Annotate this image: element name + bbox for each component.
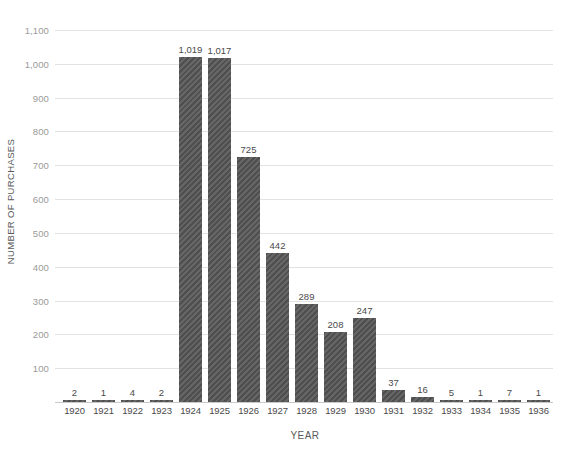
y-axis-tick-label: 1,000 — [25, 58, 49, 69]
bar-slot: 2 — [147, 30, 176, 402]
bar[interactable] — [440, 400, 463, 403]
y-axis-tick-label: 600 — [33, 194, 49, 205]
bar[interactable] — [208, 58, 231, 402]
y-axis-title-label: NUMBER OF PURCHASES — [6, 138, 17, 263]
chart-title-cropped — [300, 0, 460, 3]
bar-slot: 2 — [60, 30, 89, 402]
bar[interactable] — [527, 400, 550, 403]
bar[interactable] — [324, 332, 347, 402]
y-axis-title: NUMBER OF PURCHASES — [2, 0, 20, 402]
bar-slot: 1,019 — [176, 30, 205, 402]
y-axis-tick-label: 300 — [33, 295, 49, 306]
y-axis-tick-label: 900 — [33, 92, 49, 103]
bar[interactable] — [469, 400, 492, 403]
bar-slot: 208 — [321, 30, 350, 402]
y-axis-tick-label: 500 — [33, 227, 49, 238]
bar[interactable] — [179, 57, 202, 402]
bar[interactable] — [63, 400, 86, 403]
bar[interactable] — [353, 318, 376, 402]
y-axis-tick-label: 800 — [33, 126, 49, 137]
bar[interactable] — [121, 400, 144, 403]
bar-slot: 1,017 — [205, 30, 234, 402]
plot-area: 1,1001,000900800700600500400300200100 21… — [55, 30, 553, 402]
y-axis-tick-label: 400 — [33, 261, 49, 272]
x-axis-tick-label: 1936 — [520, 405, 557, 416]
bar-chart: NUMBER OF PURCHASES 1,1001,0009008007006… — [0, 0, 563, 454]
y-axis-tick-label: 1,100 — [25, 25, 49, 36]
x-axis-tick-labels: 1920192119221923192419251926192719281929… — [60, 405, 558, 421]
bar-slot: 16 — [408, 30, 437, 402]
bar-value-label: 1 — [512, 387, 563, 398]
bar-slot: 1 — [524, 30, 553, 402]
bar-slot: 7 — [495, 30, 524, 402]
y-axis-tick-label: 100 — [33, 363, 49, 374]
bar-series: 21421,0191,01772544228920824737165171 — [60, 30, 553, 402]
y-axis-tick-label: 200 — [33, 329, 49, 340]
x-axis-title: YEAR — [55, 430, 555, 441]
bar-slot: 247 — [350, 30, 379, 402]
bar-slot: 4 — [118, 30, 147, 402]
bar[interactable] — [92, 400, 115, 403]
y-axis-tick-label: 700 — [33, 160, 49, 171]
bar-slot: 37 — [379, 30, 408, 402]
bar[interactable] — [266, 253, 289, 402]
bar[interactable] — [150, 400, 173, 403]
bar-slot: 1 — [89, 30, 118, 402]
bar[interactable] — [237, 157, 260, 402]
bar-slot: 1 — [466, 30, 495, 402]
bar-slot: 725 — [234, 30, 263, 402]
bar-slot: 442 — [263, 30, 292, 402]
axis-baseline — [55, 402, 553, 403]
bar[interactable] — [498, 400, 521, 403]
bar-slot: 289 — [292, 30, 321, 402]
bar-slot: 5 — [437, 30, 466, 402]
